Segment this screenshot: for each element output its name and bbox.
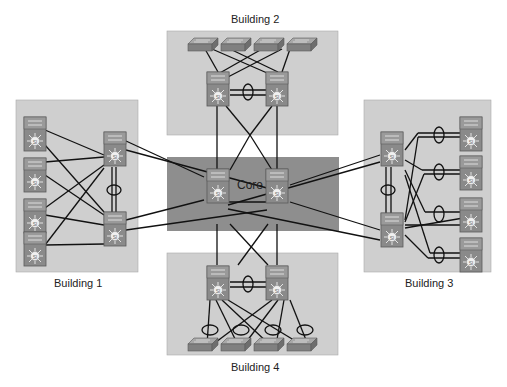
building1-label: Building 1	[54, 277, 102, 289]
building4-access-switch-icon	[254, 338, 284, 351]
building4-distribution-switch-icon	[207, 266, 229, 300]
building1-access-switches	[24, 117, 46, 266]
multilayer-switch-icon	[24, 117, 46, 151]
multilayer-switch-icon	[24, 158, 46, 192]
network-diagram: Sl	[0, 0, 507, 387]
core-switch-icon	[266, 169, 288, 203]
building2-distribution-switch-icon	[207, 72, 229, 106]
core-switch-icon	[207, 169, 229, 203]
building2-access-switch-icon	[254, 38, 284, 51]
core-label: Core	[237, 178, 263, 192]
building3-distribution-switch-icon	[381, 132, 403, 166]
building3-label: Building 3	[405, 277, 453, 289]
building2-access-switch-icon	[188, 38, 218, 51]
building3-distribution-switch-icon	[381, 213, 403, 247]
building4-distribution-switch-icon	[266, 266, 288, 300]
building2-distribution-switch-icon	[266, 72, 288, 106]
building2-access-switch-icon	[287, 38, 317, 51]
building4-access-switch-icon	[287, 338, 317, 351]
building1-distribution-switch-icon	[104, 212, 126, 246]
multilayer-switch-icon	[460, 156, 482, 190]
multilayer-switch-icon	[24, 232, 46, 266]
building4-access-switch-icon	[188, 338, 218, 351]
building4-label: Building 4	[231, 361, 279, 373]
multilayer-switch-icon	[460, 238, 482, 272]
multilayer-switch-icon	[24, 199, 46, 233]
building2-label: Building 2	[231, 13, 279, 25]
building4-access-switch-icon	[221, 338, 251, 351]
multilayer-switch-icon	[460, 198, 482, 232]
building2-access-switch-icon	[221, 38, 251, 51]
multilayer-switch-icon	[460, 117, 482, 151]
building1-distribution-switch-icon	[104, 132, 126, 166]
